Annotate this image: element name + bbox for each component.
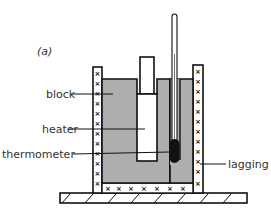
svg-text:×: ×	[180, 185, 186, 193]
bench	[60, 193, 247, 203]
svg-text:×: ×	[195, 118, 201, 126]
svg-text:×: ×	[195, 78, 201, 86]
svg-text:×: ×	[95, 140, 101, 148]
svg-text:×: ×	[195, 148, 201, 156]
svg-text:×: ×	[195, 158, 201, 166]
svg-text:×: ×	[95, 170, 101, 178]
svg-text:×: ×	[95, 160, 101, 168]
label-lagging: lagging	[228, 158, 269, 171]
block-heater-diagram: (a) × × × × × × × ×	[0, 0, 271, 219]
label-thermometer: thermometer	[2, 148, 75, 161]
svg-text:×: ×	[95, 70, 101, 78]
label-heater: heater	[42, 123, 79, 136]
svg-text:×: ×	[141, 185, 147, 193]
svg-text:×: ×	[95, 180, 101, 188]
svg-text:×: ×	[195, 98, 201, 106]
svg-text:×: ×	[95, 110, 101, 118]
metal-block	[102, 79, 170, 183]
svg-text:×: ×	[95, 120, 101, 128]
svg-text:×: ×	[195, 128, 201, 136]
svg-text:×: ×	[154, 185, 160, 193]
svg-text:×: ×	[195, 68, 201, 76]
svg-text:×: ×	[195, 138, 201, 146]
svg-text:×: ×	[95, 80, 101, 88]
svg-text:×: ×	[195, 88, 201, 96]
svg-text:×: ×	[105, 185, 111, 193]
svg-text:×: ×	[167, 185, 173, 193]
svg-text:×: ×	[195, 180, 201, 188]
svg-text:×: ×	[195, 108, 201, 116]
svg-text:×: ×	[95, 100, 101, 108]
panel-label: (a)	[37, 45, 52, 58]
svg-text:×: ×	[116, 185, 122, 193]
heater	[137, 57, 157, 161]
svg-text:×: ×	[95, 130, 101, 138]
svg-text:×: ×	[128, 185, 134, 193]
label-block: block	[46, 88, 76, 101]
svg-text:×: ×	[195, 168, 201, 176]
